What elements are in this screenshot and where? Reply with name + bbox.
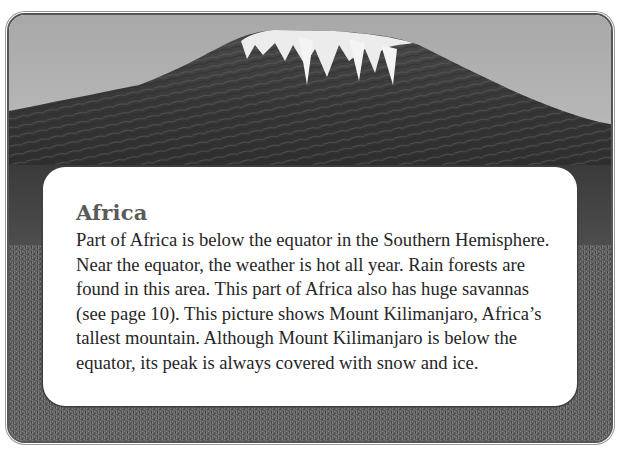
paragraph-line: equator, its peak is always covered with… (76, 351, 586, 376)
paragraph-line: Part of Africa is below the equator in t… (76, 228, 586, 253)
section-title: Africa (76, 201, 148, 225)
paragraph-line: found in this area. This part of Africa … (76, 277, 586, 302)
body-paragraph: Part of Africa is below the equator in t… (76, 228, 586, 375)
paragraph-line: tallest mountain. Although Mount Kiliman… (76, 326, 586, 351)
paragraph-line: Near the equator, the weather is hot all… (76, 253, 586, 278)
paragraph-line: (see page 10). This picture shows Mount … (76, 302, 586, 327)
text-panel: Africa Part of Africa is below the equat… (43, 167, 577, 406)
